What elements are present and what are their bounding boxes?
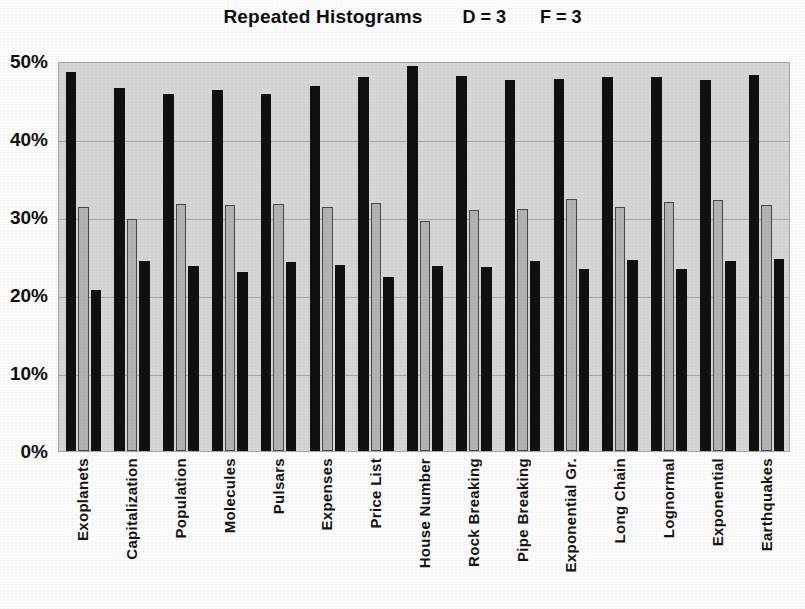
bar	[579, 269, 590, 451]
bar	[139, 261, 150, 451]
x-axis-tick-label: Lognormal	[660, 458, 677, 538]
annotation-d: D = 3	[463, 7, 507, 28]
bar	[273, 204, 284, 451]
bar	[286, 262, 297, 451]
x-axis-tick-label: Exponential	[709, 458, 726, 546]
bar	[651, 77, 662, 451]
bar	[371, 203, 382, 451]
bar	[456, 76, 467, 451]
bar	[554, 79, 565, 451]
bar	[432, 266, 443, 451]
bar	[530, 261, 541, 451]
bar	[176, 204, 187, 451]
bar	[358, 77, 369, 451]
bar-group	[456, 63, 492, 451]
x-axis-tick-label: Long Chain	[611, 458, 628, 544]
bar	[627, 260, 638, 451]
chart-title: Repeated Histograms	[223, 6, 422, 28]
x-axis: ExoplanetsCapitalizationPopulationMolecu…	[58, 452, 790, 609]
bar	[188, 266, 199, 451]
bar	[749, 75, 760, 451]
bar	[163, 94, 174, 451]
bar-group	[66, 63, 102, 451]
bar-group	[114, 63, 150, 451]
x-axis-tick-label: Exoplanets	[74, 458, 91, 541]
bar	[322, 207, 333, 451]
bar	[676, 269, 687, 451]
bar-group	[651, 63, 687, 451]
bar	[407, 66, 418, 451]
bar	[517, 209, 528, 451]
bar	[713, 200, 724, 451]
bar	[114, 88, 125, 451]
bar	[761, 205, 772, 451]
bar	[420, 221, 431, 451]
bar-groups	[59, 63, 789, 451]
x-axis-tick-label: Price List	[367, 458, 384, 529]
bar	[127, 219, 138, 451]
x-axis-tick-label: House Number	[416, 458, 433, 568]
bar	[212, 90, 223, 451]
bar	[505, 80, 516, 451]
bar	[310, 86, 321, 451]
x-axis-tick-label: Pipe Breaking	[514, 458, 531, 562]
bar	[774, 259, 785, 451]
bar-group	[602, 63, 638, 451]
bar	[261, 94, 272, 451]
bar	[664, 202, 675, 451]
chart-container: Repeated Histograms D = 3 F = 3 50%40%30…	[0, 0, 805, 609]
bar	[78, 207, 89, 451]
bar	[725, 261, 736, 451]
bar-group	[212, 63, 248, 451]
bar-group	[163, 63, 199, 451]
x-axis-tick-label: Rock Breaking	[465, 458, 482, 567]
bar	[225, 205, 236, 451]
bar	[481, 267, 492, 451]
y-axis-tick-label: 40%	[10, 129, 48, 151]
bar	[602, 77, 613, 451]
x-axis-tick-label: Earthquakes	[758, 458, 775, 551]
bar-group	[261, 63, 297, 451]
bar-group	[554, 63, 590, 451]
bar	[237, 272, 248, 451]
y-axis-tick-label: 20%	[10, 285, 48, 307]
bar-group	[700, 63, 736, 451]
x-axis-tick-label: Pulsars	[270, 458, 287, 514]
y-axis-tick-label: 10%	[10, 363, 48, 385]
y-axis: 50%40%30%20%10%0%	[0, 62, 54, 452]
x-axis-tick-label: Population	[172, 458, 189, 539]
plot-area	[58, 62, 790, 452]
bar-group	[407, 63, 443, 451]
bar	[383, 277, 394, 451]
y-axis-tick-label: 0%	[21, 441, 48, 463]
x-axis-tick-label: Expenses	[318, 458, 335, 530]
chart-title-row: Repeated Histograms D = 3 F = 3	[0, 2, 805, 32]
bar-group	[505, 63, 541, 451]
bar	[700, 80, 711, 451]
x-axis-tick-label: Molecules	[221, 458, 238, 533]
bar	[615, 207, 626, 451]
x-axis-tick-label: Exponential Gr.	[562, 458, 579, 573]
bar-group	[749, 63, 785, 451]
bar	[91, 290, 102, 451]
y-axis-tick-label: 30%	[10, 207, 48, 229]
bar	[566, 199, 577, 451]
x-axis-tick-label: Capitalization	[123, 458, 140, 560]
bar	[335, 265, 346, 451]
annotation-f: F = 3	[540, 7, 582, 28]
bar	[469, 210, 480, 451]
bar-group	[358, 63, 394, 451]
bar	[66, 72, 77, 451]
y-axis-tick-label: 50%	[10, 51, 48, 73]
bar-group	[310, 63, 346, 451]
